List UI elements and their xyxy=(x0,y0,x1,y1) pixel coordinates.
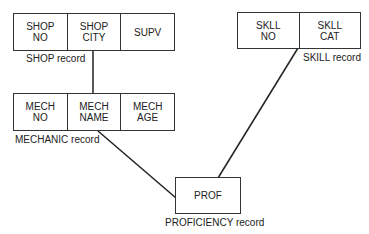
field-supv: SUPV xyxy=(120,14,174,50)
field-skll-no: SKLL NO xyxy=(238,13,299,48)
field-prof: PROF xyxy=(176,178,240,213)
field-shop-no: SHOP NO xyxy=(14,14,67,50)
shop-record-label: SHOP record xyxy=(26,53,85,64)
proficiency-record-box: PROF xyxy=(175,177,241,214)
field-shop-city: SHOP CITY xyxy=(67,14,121,50)
skill-record-label: SKILL record xyxy=(303,52,361,63)
proficiency-record-label: PROFICIENCY record xyxy=(165,217,264,228)
skill-record-box: SKLL NO SKLL CAT xyxy=(237,12,361,49)
field-mech-age: MECH AGE xyxy=(120,94,174,130)
mechanic-record-box: MECH NO MECH NAME MECH AGE xyxy=(13,93,175,131)
field-mech-name: MECH NAME xyxy=(67,94,121,130)
mechanic-to-proficiency-link xyxy=(98,131,176,198)
shop-record-box: SHOP NO SHOP CITY SUPV xyxy=(13,13,175,51)
field-skll-cat: SKLL CAT xyxy=(299,13,361,48)
mechanic-record-label: MECHANIC record xyxy=(15,134,99,145)
skill-to-proficiency-link xyxy=(218,48,298,178)
field-mech-no: MECH NO xyxy=(14,94,67,130)
